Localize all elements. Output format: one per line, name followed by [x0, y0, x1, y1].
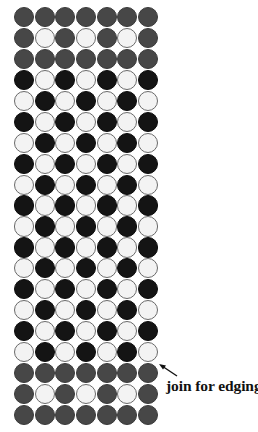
- join-for-edging-label: join for edging: [166, 377, 258, 395]
- arrow-icon: [0, 0, 258, 432]
